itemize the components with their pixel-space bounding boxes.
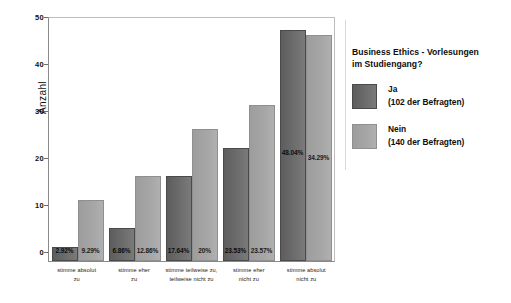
- bar-label-ja-2: 17.64%: [167, 247, 191, 254]
- y-tick-20: 20: [18, 154, 44, 163]
- y-tick-40: 40: [18, 60, 44, 69]
- bar-group-2: 17.64% 20%: [166, 18, 218, 261]
- bar-group-4: 48.04% 34.29%: [280, 18, 332, 261]
- y-tick-10: 10: [18, 201, 44, 210]
- x-label-3: stimme eher nicht zu: [221, 266, 277, 284]
- bar-ja-0[interactable]: 2.92%: [52, 247, 78, 261]
- y-axis-ticks: 50 40 30 20 10 0: [16, 0, 44, 303]
- y-tick-30: 30: [18, 107, 44, 116]
- x-label-2: stimme teilweise zu, teilweise nicht zu: [163, 266, 219, 284]
- bar-label-nein-4: 34.29%: [307, 154, 331, 161]
- bar-ja-1[interactable]: 6.86%: [109, 228, 135, 261]
- y-tick-50: 50: [18, 13, 44, 22]
- y-tick-0: 0: [18, 248, 44, 257]
- bar-nein-2[interactable]: 20%: [192, 129, 218, 261]
- legend-label-nein: Nein: [388, 123, 464, 136]
- bar-group-0: 2.92% 9.29%: [52, 18, 104, 261]
- legend-title-line1: Business Ethics - Vorlesungen: [352, 46, 508, 58]
- x-label-0-line2: zu: [49, 275, 105, 284]
- bar-groups: 2.92% 9.29% 6.86% 12.86% 17.64%: [49, 18, 334, 261]
- x-label-2-line1: stimme teilweise zu,: [163, 266, 219, 275]
- x-label-2-line2: teilweise nicht zu: [163, 275, 219, 284]
- x-label-1-line1: stimme eher: [106, 266, 162, 275]
- x-label-0: stimme absolut zu: [49, 266, 105, 284]
- legend-swatch-ja: [352, 84, 377, 109]
- x-label-1-line2: zu: [106, 275, 162, 284]
- legend-swatch-nein: [352, 124, 377, 149]
- plot-area: 2.92% 9.29% 6.86% 12.86% 17.64%: [48, 17, 335, 262]
- legend-separator: [345, 20, 346, 170]
- bar-label-nein-1: 12.86%: [136, 247, 160, 254]
- bar-label-ja-3: 23.53%: [224, 247, 248, 254]
- legend-detail-nein: (140 der Befragten): [388, 136, 464, 149]
- bar-group-3: 23.53% 23.57%: [223, 18, 275, 261]
- legend-detail-ja: (102 der Befragten): [388, 96, 464, 109]
- bar-nein-3[interactable]: 23.57%: [249, 105, 275, 261]
- legend-text-ja: Ja (102 der Befragten): [388, 83, 464, 109]
- legend-label-ja: Ja: [388, 83, 464, 96]
- x-label-4-line1: stimme absolut: [278, 266, 334, 275]
- x-label-4: stimme absolut nicht zu: [278, 266, 334, 284]
- x-label-3-line2: nicht zu: [221, 275, 277, 284]
- x-label-4-line2: nicht zu: [278, 275, 334, 284]
- bar-ja-2[interactable]: 17.64%: [166, 176, 192, 261]
- bar-label-ja-1: 6.86%: [110, 247, 134, 254]
- x-label-0-line1: stimme absolut: [49, 266, 105, 275]
- legend-item-nein[interactable]: Nein (140 der Befragten): [352, 123, 508, 149]
- bar-label-nein-2: 20%: [193, 247, 217, 254]
- legend-item-ja[interactable]: Ja (102 der Befragten): [352, 83, 508, 109]
- x-label-1: stimme eher zu: [106, 266, 162, 284]
- bar-nein-0[interactable]: 9.29%: [78, 200, 104, 261]
- legend-title: Business Ethics - Vorlesungen im Studien…: [352, 46, 508, 70]
- bar-nein-1[interactable]: 12.86%: [135, 176, 161, 261]
- x-axis-labels: stimme absolut zu stimme eher zu stimme …: [48, 266, 335, 302]
- bar-label-nein-3: 23.57%: [250, 247, 274, 254]
- legend: Business Ethics - Vorlesungen im Studien…: [352, 46, 508, 163]
- legend-title-line2: im Studiengang?: [352, 58, 508, 70]
- x-label-3-line1: stimme eher: [221, 266, 277, 275]
- bar-label-nein-0: 9.29%: [79, 247, 103, 254]
- bar-ja-4[interactable]: 48.04%: [280, 30, 306, 261]
- bar-ja-3[interactable]: 23.53%: [223, 148, 249, 261]
- bar-group-1: 6.86% 12.86%: [109, 18, 161, 261]
- bar-label-ja-0: 2.92%: [53, 247, 77, 254]
- bar-chart-figure: Anzahl 50 40 30 20 10 0 2.92% 9.29% 6.: [0, 0, 511, 303]
- bar-nein-4[interactable]: 34.29%: [306, 35, 332, 261]
- bar-label-ja-4: 48.04%: [281, 149, 305, 156]
- legend-text-nein: Nein (140 der Befragten): [388, 123, 464, 149]
